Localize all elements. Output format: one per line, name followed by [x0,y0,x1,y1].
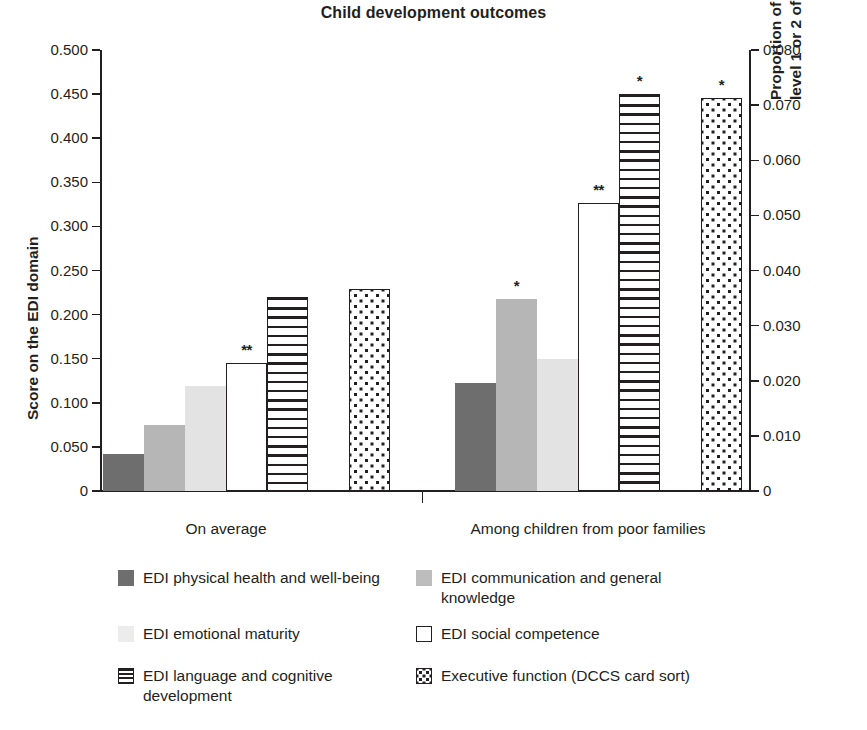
y-tick-right [751,104,759,106]
y-tick-label-right: 0.040 [763,263,801,278]
x-category-label-2: Among children from poor families [428,520,748,538]
bar-physical-group1 [103,454,144,491]
y-tick-left [92,93,100,95]
bar-social-group1 [226,363,267,491]
legend-label-4: EDI social competence [441,624,600,644]
legend-label-5: EDI language and cognitive development [143,666,393,705]
legend-swatch-icon-5 [118,668,134,684]
legend-item-1[interactable]: EDI physical health and well-being [118,568,380,588]
y-tick-left [92,226,100,228]
legend-swatch-icon-4 [416,626,432,642]
bar-communication-group1 [144,425,185,491]
significance-marker-language-group2: * [619,72,660,89]
bar-language-group1 [267,297,308,491]
chart-legend: EDI physical health and well-beingEDI co… [118,568,858,728]
y-tick-label-left: 0 [24,483,88,498]
y-tick-right [751,435,759,437]
bar-language-group2 [619,94,660,491]
y-tick-label-right: 0.050 [763,207,801,222]
y-tick-label-right: 0 [763,483,771,498]
significance-marker-communication-group2: * [496,277,537,294]
bar-physical-group2 [455,383,496,491]
y-tick-right [751,380,759,382]
y-axis-right-title-wrapper: Proportion of children able to perform l… [800,0,860,100]
bar-communication-group2 [496,299,537,491]
y-tick-left [92,182,100,184]
significance-marker-social-group2: ** [578,181,619,198]
y-tick-left [92,270,100,272]
legend-label-2: EDI communication and general knowledge [441,568,691,607]
x-category-label-1: On average [66,520,386,538]
significance-marker-social-group1: ** [226,341,267,358]
y-tick-label-left: 0.350 [24,174,88,189]
x-axis-group-separator [422,491,423,503]
legend-swatch-icon-2 [416,570,432,586]
y-tick-left [92,137,100,139]
y-tick-label-left: 0.450 [24,86,88,101]
y-tick-right [751,160,759,162]
legend-item-2[interactable]: EDI communication and general knowledge [416,568,691,607]
y-tick-label-left: 0.400 [24,130,88,145]
legend-swatch-icon-3 [118,626,134,642]
y-tick-left [92,314,100,316]
y-tick-right [751,270,759,272]
bar-executive-group2 [701,98,742,491]
y-tick-label-left: 0.300 [24,218,88,233]
legend-label-1: EDI physical health and well-being [143,568,380,588]
legend-item-6[interactable]: Executive function (DCCS card sort) [416,666,690,686]
chart-figure: Child development outcomes Score on the … [0,0,867,730]
y-tick-right [751,490,759,492]
bar-emotional-group1 [185,386,226,491]
chart-title: Child development outcomes [0,4,867,22]
y-tick-label-left: 0.200 [24,307,88,322]
y-tick-label-right: 0.080 [763,42,801,57]
y-tick-label-left: 0.500 [24,42,88,57]
y-tick-left [92,402,100,404]
y-tick-label-right: 0.030 [763,318,801,333]
bar-social-group2 [578,203,619,491]
bar-emotional-group2 [537,359,578,491]
y-tick-label-left: 0.100 [24,395,88,410]
y-tick-label-left: 0.050 [24,439,88,454]
legend-swatch-icon-1 [118,570,134,586]
y-tick-left [92,49,100,51]
y-tick-label-left: 0.250 [24,263,88,278]
y-tick-label-right: 0.070 [763,97,801,112]
significance-marker-executive-group2: * [701,76,742,93]
y-tick-label-right: 0.020 [763,373,801,388]
legend-swatch-icon-6 [416,668,432,684]
y-tick-label-right: 0.060 [763,152,801,167]
bar-executive-group1 [349,289,390,491]
y-axis-left-line [100,50,102,491]
y-tick-label-left: 0.150 [24,351,88,366]
y-tick-right [751,215,759,217]
legend-label-3: EDI emotional maturity [143,624,300,644]
y-tick-left [92,358,100,360]
legend-item-3[interactable]: EDI emotional maturity [118,624,300,644]
y-tick-left [92,446,100,448]
y-tick-label-right: 0.010 [763,428,801,443]
y-tick-left [92,490,100,492]
y-tick-right [751,49,759,51]
legend-label-6: Executive function (DCCS card sort) [441,666,690,686]
legend-item-5[interactable]: EDI language and cognitive development [118,666,393,705]
legend-item-4[interactable]: EDI social competence [416,624,600,644]
y-tick-right [751,325,759,327]
